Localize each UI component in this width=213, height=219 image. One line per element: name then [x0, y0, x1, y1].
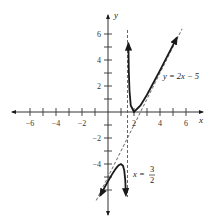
x-tick-label: −6 — [26, 119, 35, 128]
x-tick-label: 2 — [132, 119, 136, 128]
x-tick-label: −2 — [78, 119, 87, 128]
y-tick-label: −2 — [92, 134, 101, 143]
y-tick-label: 2 — [97, 82, 101, 91]
y-axis-label: y — [113, 10, 118, 20]
vertical-asymptote-prefix: x = — [132, 169, 145, 179]
left-branch-curve — [100, 164, 126, 196]
x-tick-label: −4 — [52, 119, 61, 128]
fraction-numerator: 3 — [150, 164, 154, 174]
y-tick-label: 6 — [97, 30, 101, 39]
fraction-denominator: 2 — [150, 175, 154, 185]
y-tick-label: −4 — [92, 160, 101, 169]
y-tick-label: 4 — [97, 56, 101, 65]
x-axis-label: x — [198, 115, 203, 125]
x-tick-label: 6 — [184, 119, 188, 128]
vertical-asymptote-label: x = 3 2 — [132, 164, 155, 185]
x-tick-label: 4 — [158, 119, 162, 128]
oblique-asymptote-label: y = 2x − 5 — [162, 71, 199, 81]
function-graph: −6 −4 −2 2 4 6 x 6 4 2 −2 −4 y — [0, 0, 213, 219]
